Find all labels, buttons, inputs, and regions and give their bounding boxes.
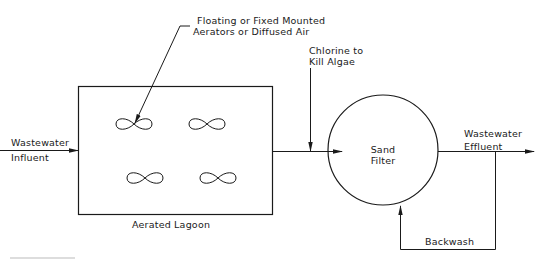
effluent-label-line2: Effluent: [464, 141, 522, 152]
aerators-label: Floating or Fixed Mounted Aerators or Di…: [197, 15, 325, 37]
aerator-icon: [127, 173, 163, 184]
sand-filter-label-line2: Filter: [352, 155, 414, 166]
aerated-lagoon-box: [79, 87, 273, 215]
aerators-label-line1: Floating or Fixed Mounted: [197, 15, 325, 26]
effluent-label-line1: Wastewater: [464, 128, 522, 139]
aerators-label-line2: Aerators or Diffused Air: [193, 26, 325, 37]
lagoon-label: Aerated Lagoon: [132, 219, 210, 230]
chlorine-label-line1: Chlorine to: [309, 45, 363, 56]
effluent-label: Wastewater Effluent: [464, 128, 522, 152]
influent-label-line2: Influent: [11, 152, 69, 163]
chlorine-label-line2: Kill Algae: [309, 56, 363, 67]
aerator-icon: [189, 119, 225, 130]
backwash-line: [401, 152, 496, 250]
influent-label: Wastewater Influent: [11, 137, 69, 163]
sand-filter-label: Sand Filter: [352, 144, 414, 166]
aerator-icon: [200, 173, 236, 184]
aerator-leader-line: [135, 26, 190, 123]
aerator-icon: [116, 119, 152, 130]
chlorine-label: Chlorine to Kill Algae: [309, 45, 363, 67]
influent-label-line1: Wastewater: [11, 137, 69, 148]
sand-filter-label-line1: Sand: [352, 144, 414, 155]
backwash-label: Backwash: [425, 236, 474, 247]
